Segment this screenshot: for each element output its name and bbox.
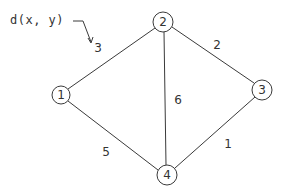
edge-1-2-weight: 3 [94, 41, 102, 55]
node-4-label: 4 [163, 168, 171, 182]
node-2-label: 2 [159, 15, 167, 29]
node-1-label: 1 [57, 88, 65, 102]
edge-1-4-weight: 5 [102, 145, 110, 159]
node-2: 2 [153, 12, 173, 32]
edge-2-3-weight: 2 [213, 38, 221, 52]
edge-2-4 [164, 32, 166, 165]
node-4: 4 [157, 165, 177, 185]
node-3: 3 [252, 80, 272, 100]
node-1: 1 [52, 86, 70, 104]
annotation-label: d(x, y) [10, 13, 64, 27]
node-3-label: 3 [258, 83, 266, 97]
annotation-arrow-icon [73, 21, 93, 43]
edge-1-4 [68, 101, 158, 170]
edge-1-2 [68, 28, 155, 89]
graph-diagram: d(x, y) 1 2 3 4 3 2 6 5 1 [0, 0, 287, 196]
edge-3-4-weight: 1 [224, 137, 232, 151]
edge-3-4 [175, 97, 255, 168]
edge-2-4-weight: 6 [174, 93, 182, 107]
edge-2-3 [172, 27, 254, 83]
